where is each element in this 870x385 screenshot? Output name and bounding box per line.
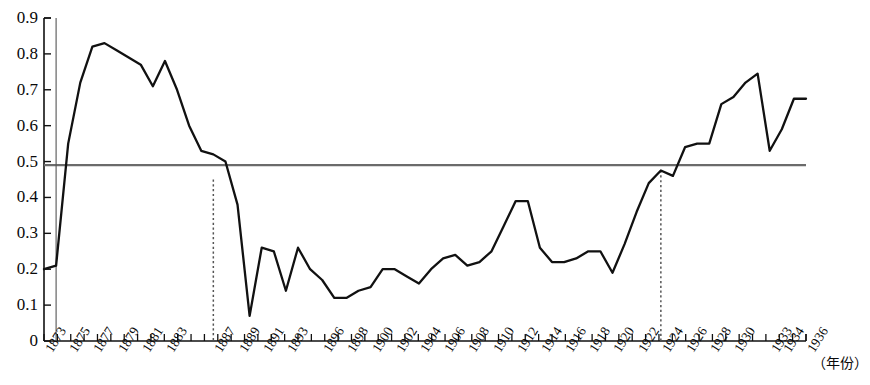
series-group xyxy=(44,43,806,316)
y-tick-label: 0.7 xyxy=(0,80,38,100)
y-tick-label: 0.5 xyxy=(0,152,38,172)
annotations-group xyxy=(44,18,806,341)
axes-group xyxy=(44,18,806,341)
y-tick-label: 0.2 xyxy=(0,259,38,279)
data-line-series-1 xyxy=(44,43,806,316)
y-tick-label: 0 xyxy=(0,331,38,351)
y-tick-label: 0.9 xyxy=(0,8,38,28)
chart-container: 0.90.80.70.60.50.40.30.20.10 18731875187… xyxy=(0,0,870,385)
y-tick-label: 0.4 xyxy=(0,187,38,207)
y-ticks-group xyxy=(44,18,51,341)
y-tick-label: 0.1 xyxy=(0,295,38,315)
y-tick-label: 0.6 xyxy=(0,116,38,136)
x-axis-title: （年份） xyxy=(812,352,868,372)
y-tick-label: 0.8 xyxy=(0,44,38,64)
y-tick-label: 0.3 xyxy=(0,223,38,243)
